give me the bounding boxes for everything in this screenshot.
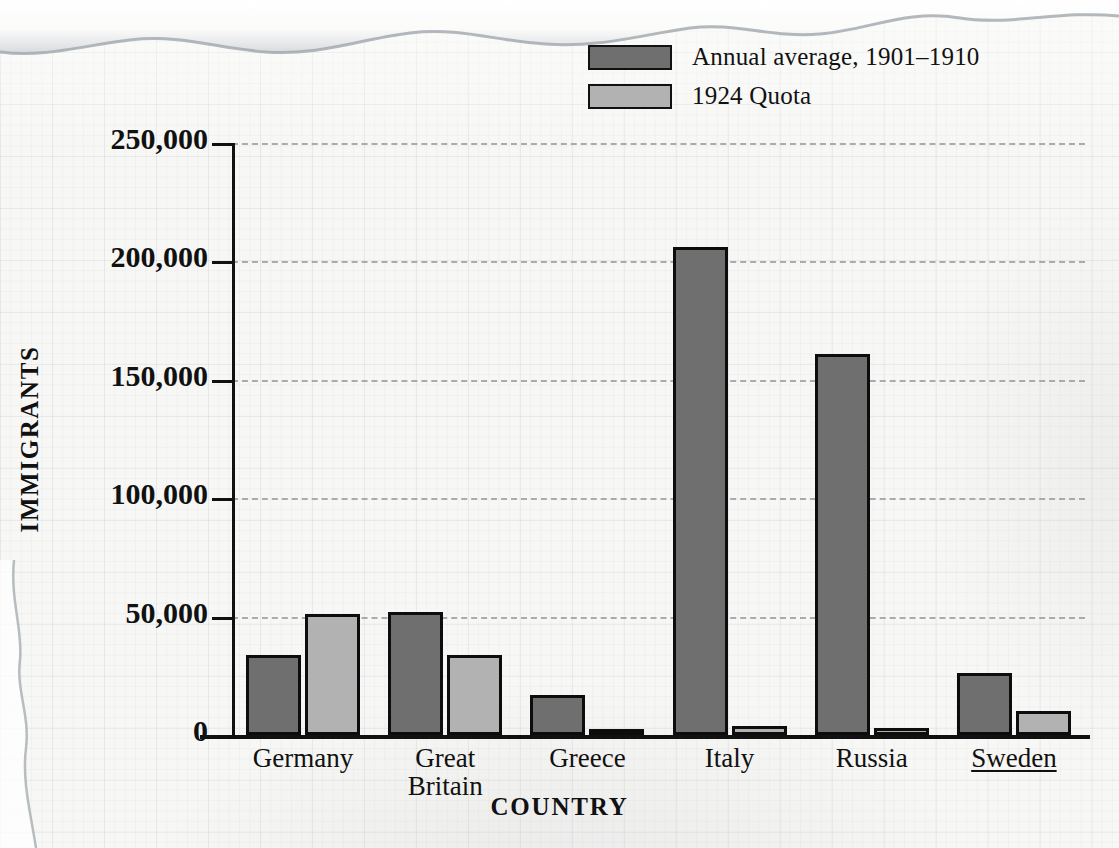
gridline-250000 [232,143,1085,145]
bar-italy-1924-quota [732,726,787,735]
bar-russia-annual-average [815,354,870,735]
plot-area [232,143,1085,735]
y-axis-line [232,143,235,735]
x-axis-line [200,735,1090,739]
legend-swatch-annual-average [588,45,672,70]
y-tick-label-200000: 200,000 [60,240,208,274]
chart-legend: Annual average, 1901–1910 1924 Quota [588,40,980,118]
legend-item-1924-quota: 1924 Quota [588,79,980,113]
x-axis-title: COUNTRY [0,793,1119,821]
gridline-150000 [232,380,1085,382]
y-tick-label-50000: 50,000 [60,596,208,630]
y-tick-label-150000: 150,000 [60,359,208,393]
y-tick-150000 [212,380,234,383]
bar-sweden-1924-quota [1016,711,1071,735]
y-axis-title-wrap: IMMIGRANTS [0,143,60,735]
x-axis-label-sweden: Sweden [924,744,1104,772]
y-tick-label-0: 0 [60,714,208,748]
legend-label-annual-average: Annual average, 1901–1910 [692,43,980,71]
legend-item-annual-average: Annual average, 1901–1910 [588,40,980,74]
bar-russia-1924-quota [874,728,929,735]
y-tick-100000 [212,498,234,501]
legend-swatch-1924-quota [588,84,672,109]
y-tick-50000 [212,617,234,620]
bar-germany-1924-quota [305,614,360,735]
gridline-100000 [232,498,1085,500]
chart-page: Annual average, 1901–1910 1924 Quota IMM… [0,0,1119,848]
gridline-200000 [232,261,1085,263]
bar-italy-annual-average [673,247,728,735]
y-tick-label-100000: 100,000 [60,477,208,511]
bar-sweden-annual-average [957,673,1012,735]
legend-label-1924-quota: 1924 Quota [692,82,811,110]
y-tick-250000 [212,143,234,146]
y-tick-200000 [212,261,234,264]
bar-great-britain-annual-average [388,612,443,735]
bar-greece-annual-average [530,695,585,735]
y-tick-label-250000: 250,000 [60,122,208,156]
bar-great-britain-1924-quota [447,655,502,736]
y-axis-title: IMMIGRANTS [16,346,44,533]
bar-germany-annual-average [246,655,301,736]
y-tick-0 [212,735,234,738]
